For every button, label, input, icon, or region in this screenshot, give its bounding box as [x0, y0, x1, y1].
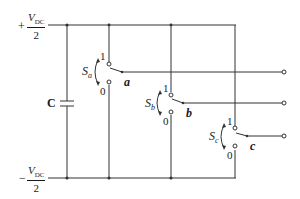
switch-c-blade [236, 133, 247, 136]
output-b-terminal [282, 101, 286, 105]
switch-a-state-0: 0 [100, 85, 106, 97]
negative-rail-label: VDC 2 [27, 164, 45, 194]
switch-a-label: Sa [82, 64, 92, 80]
capacitor-label: C [47, 97, 56, 109]
switch-c-terminal-0 [233, 144, 237, 148]
switch-c-state-1: 1 [227, 115, 233, 127]
switch-b-blade [172, 99, 183, 103]
output-a-label: a [124, 75, 130, 90]
switch-c-terminal-1 [233, 126, 237, 130]
denominator: 2 [27, 181, 45, 194]
junction-dot [108, 24, 111, 27]
switch-a-terminal-1 [107, 62, 111, 66]
denominator: 2 [27, 28, 45, 41]
positive-rail-label: VDC 2 [27, 11, 45, 41]
junction-dot [107, 176, 110, 179]
switch-a-arrow [95, 60, 98, 84]
vdc-symbol: V [28, 11, 35, 23]
switch-a-terminal-0 [107, 80, 111, 84]
output-c-terminal [282, 134, 286, 138]
switch-c-state-0: 0 [227, 149, 233, 161]
positive-sign: + [18, 19, 25, 34]
switch-a-state-1: 1 [100, 50, 106, 62]
switch-b-terminal-1 [169, 93, 173, 97]
vdc-symbol: V [28, 164, 35, 176]
switch-a-blade [110, 68, 122, 72]
output-a-terminal [282, 70, 286, 74]
vdc-subscript: DC [35, 18, 45, 26]
junction-dot [170, 24, 173, 27]
negative-sign: − [19, 171, 26, 186]
output-c-label: c [250, 139, 255, 154]
switch-b-state-0: 0 [163, 115, 169, 127]
junction-dot [65, 176, 68, 179]
output-b-label: b [186, 106, 192, 121]
switch-b-terminal-0 [169, 110, 173, 114]
switch-b-state-1: 1 [163, 82, 169, 94]
switch-b-label: Sb [145, 96, 155, 112]
junction-dot [65, 23, 68, 26]
junction-dot [169, 176, 172, 179]
vdc-subscript: DC [35, 171, 45, 179]
switch-c-label: Sc [209, 129, 219, 145]
